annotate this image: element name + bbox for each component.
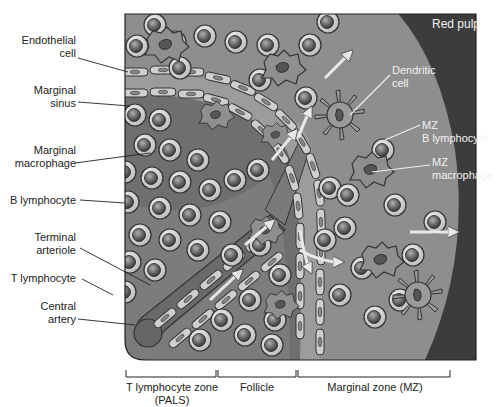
label-mz-b-lymphocyte: MZ B lymphocyte xyxy=(422,119,488,145)
label-line: artery xyxy=(41,313,76,326)
label-t-lymphocyte: T lymphocyte xyxy=(11,272,76,285)
label-line: Central xyxy=(41,300,76,313)
zone-label-pals: T lymphocyte zone (PALS) xyxy=(118,381,226,407)
label-line: cell xyxy=(22,47,76,60)
label-line: Dendritic xyxy=(392,64,435,77)
label-central-artery: Central artery xyxy=(41,300,76,326)
label-line: Red pulp xyxy=(432,18,480,31)
zone-brackets xyxy=(126,370,450,377)
label-line: Follicle xyxy=(218,381,296,394)
label-line: macrophage xyxy=(15,157,76,170)
label-line: MZ xyxy=(432,156,493,169)
zone-label-marginal-zone: Marginal zone (MZ) xyxy=(300,381,450,394)
label-line: T lymphocyte xyxy=(11,272,76,285)
label-line: Terminal xyxy=(34,231,76,244)
label-line: Marginal zone (MZ) xyxy=(300,381,450,394)
label-line: T lymphocyte zone xyxy=(118,381,226,394)
label-line: cell xyxy=(392,77,435,90)
label-line: B lymphocyte xyxy=(422,132,488,145)
zone-label-follicle: Follicle xyxy=(218,381,296,394)
label-line: (PALS) xyxy=(118,394,226,407)
label-marginal-sinus: Marginal sinus xyxy=(34,84,76,110)
label-red-pulp: Red pulp xyxy=(432,18,480,31)
label-line: Marginal xyxy=(15,144,76,157)
label-line: macrophage xyxy=(432,169,493,182)
label-line: sinus xyxy=(34,97,76,110)
label-line: Endothelial xyxy=(22,34,76,47)
label-line: MZ xyxy=(422,119,488,132)
label-endothelial-cell: Endothelial cell xyxy=(22,34,76,60)
label-dendritic-cell: Dendritic cell xyxy=(392,64,435,90)
label-line: Marginal xyxy=(34,84,76,97)
label-marginal-macrophage: Marginal macrophage xyxy=(15,144,76,170)
label-line: arteriole xyxy=(34,244,76,257)
label-terminal-arteriole: Terminal arteriole xyxy=(34,231,76,257)
label-line: B lymphocyte xyxy=(10,194,76,207)
label-mz-macrophage: MZ macrophage xyxy=(432,156,493,182)
label-b-lymphocyte: B lymphocyte xyxy=(10,194,76,207)
